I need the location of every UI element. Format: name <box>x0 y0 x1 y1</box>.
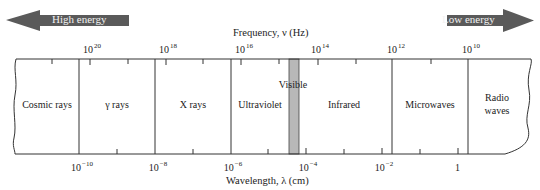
frequency-tick-label: 1018 <box>159 42 177 55</box>
frequency-tick-label: 1020 <box>83 42 101 55</box>
low-energy-label: Low energy <box>442 13 495 25</box>
region-infrared: Infrared <box>328 98 360 111</box>
region-visible: Visible <box>279 78 307 91</box>
region-cosmic-rays: Cosmic rays <box>22 98 72 111</box>
high-energy-label: High energy <box>52 13 106 25</box>
frequency-tick-label: 1012 <box>387 42 405 55</box>
wavelength-tick-label: 10−4 <box>299 160 317 173</box>
wavelength-tick-label: 10−8 <box>149 160 167 173</box>
wavelength-tick-label: 10−6 <box>224 160 242 173</box>
region-ultraviolet: Ultraviolet <box>238 98 281 111</box>
frequency-ticks <box>52 59 431 65</box>
region-radio-waves: Radiowaves <box>485 91 510 117</box>
visible-band <box>289 59 299 154</box>
left-wavy-edge <box>13 59 16 154</box>
wavelength-tick-label: 1 <box>455 160 461 173</box>
frequency-axis-title: Frequency, ν (Hz) <box>233 27 309 38</box>
frequency-tick-label: 1016 <box>235 42 253 55</box>
region-x-rays: X rays <box>180 98 206 111</box>
wavelength-ticks <box>117 148 458 154</box>
region-microwaves: Microwaves <box>405 98 454 111</box>
wavelength-axis-title: Wavelength, λ (cm) <box>226 175 309 186</box>
region-gamma-rays: γ rays <box>105 98 129 111</box>
wavelength-tick-label: 10−10 <box>71 160 93 173</box>
frequency-tick-label: 1014 <box>311 42 329 55</box>
wavelength-tick-label: 10−2 <box>375 160 393 173</box>
frequency-tick-label: 1010 <box>462 42 480 55</box>
